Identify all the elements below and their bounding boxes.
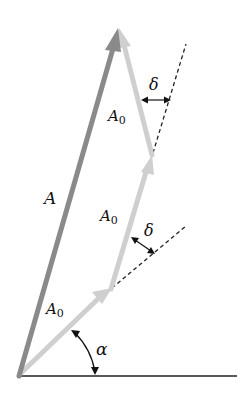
label-phasor-top: A0 (106, 107, 126, 127)
phasor-arrow-2 (111, 172, 146, 289)
label-delta-top: δ (149, 75, 159, 94)
label-alpha: α (96, 339, 108, 359)
alpha-arc (75, 333, 95, 372)
label-delta-middle: δ (144, 221, 154, 240)
phasor-diagram: A A0 A0 A0 δ δ α (0, 0, 244, 404)
label-resultant: A (42, 188, 56, 208)
delta-arrow-top (141, 97, 171, 104)
phasor-arrowhead-2 (141, 155, 154, 175)
dashed-extension-2 (153, 44, 186, 153)
label-phasor-middle: A0 (98, 207, 118, 227)
alpha-arrowhead-bottom (91, 367, 99, 375)
label-phasor-bottom: A0 (44, 300, 64, 320)
